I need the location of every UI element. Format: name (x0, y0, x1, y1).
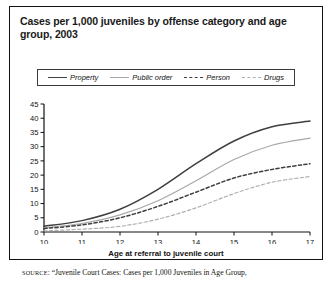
dashed-line-dark-swatch-icon (184, 75, 203, 80)
svg-text:20: 20 (30, 171, 38, 180)
svg-text:17: 17 (306, 238, 314, 244)
chart-legend: Property Public order Person Drugs (37, 69, 295, 86)
svg-text:16: 16 (268, 238, 276, 244)
figure-container: Cases per 1,000 juveniles by offense cat… (0, 0, 332, 287)
svg-text:5: 5 (34, 213, 38, 222)
source-keyword: SOURCE (22, 269, 48, 276)
legend-label-property: Property (70, 73, 98, 82)
legend-item-property: Property (48, 73, 98, 82)
svg-text:13: 13 (154, 238, 162, 244)
legend-label-person: Person (206, 73, 230, 82)
dashed-line-light-swatch-icon (242, 75, 261, 80)
svg-text:45: 45 (30, 100, 38, 109)
series-line-person (44, 164, 310, 229)
source-note: SOURCE: “Juvenile Court Cases: Cases per… (22, 268, 322, 278)
svg-text:10: 10 (40, 238, 48, 244)
legend-label-public-order: Public order (132, 73, 172, 82)
x-axis-title: Age at referral to juvenile court (0, 249, 332, 258)
svg-text:15: 15 (230, 238, 238, 244)
svg-text:25: 25 (30, 157, 38, 166)
plot-area: 0510152025303540451011121314151617 (14, 96, 314, 244)
svg-text:12: 12 (116, 238, 124, 244)
svg-text:35: 35 (30, 128, 38, 137)
svg-text:30: 30 (30, 142, 38, 151)
solid-line-light-swatch-icon (110, 75, 129, 80)
legend-label-drugs: Drugs (264, 73, 284, 82)
solid-line-dark-swatch-icon (48, 75, 67, 80)
svg-text:15: 15 (30, 185, 38, 194)
line-chart-svg: 0510152025303540451011121314151617 (14, 96, 314, 244)
svg-text:0: 0 (34, 228, 38, 237)
source-text: : “Juvenile Court Cases: Cases per 1,000… (48, 268, 247, 277)
chart-title: Cases per 1,000 juveniles by offense cat… (20, 15, 310, 41)
svg-text:40: 40 (30, 114, 38, 123)
legend-item-person: Person (184, 73, 230, 82)
svg-text:10: 10 (30, 199, 38, 208)
svg-text:14: 14 (192, 238, 200, 244)
svg-text:11: 11 (78, 238, 86, 244)
legend-item-drugs: Drugs (242, 73, 284, 82)
legend-item-public-order: Public order (110, 73, 172, 82)
series-line-property (44, 121, 310, 226)
